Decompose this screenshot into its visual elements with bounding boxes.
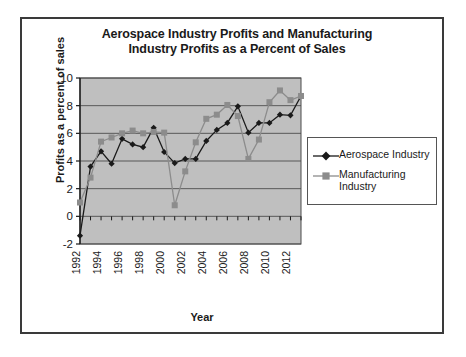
svg-text:10: 10	[60, 72, 73, 84]
chart-frame: Aerospace Industry Profits and Manufactu…	[20, 17, 444, 334]
svg-text:4: 4	[67, 155, 74, 167]
svg-text:2000: 2000	[154, 251, 166, 275]
svg-text:8: 8	[67, 100, 73, 112]
svg-text:2010: 2010	[259, 251, 271, 275]
svg-text:2012: 2012	[280, 251, 292, 275]
legend-label-manufacturing: Manufacturing Industry	[339, 168, 431, 192]
svg-text:2006: 2006	[217, 251, 229, 275]
legend-item-aerospace[interactable]: Aerospace Industry	[313, 148, 431, 163]
legend-item-manufacturing[interactable]: Manufacturing Industry	[313, 168, 431, 192]
svg-text:1998: 1998	[133, 251, 145, 275]
svg-text:1996: 1996	[112, 251, 124, 275]
legend-marker-square-icon	[313, 169, 339, 183]
svg-text:1992: 1992	[70, 251, 82, 275]
svg-text:-2: -2	[63, 238, 73, 250]
svg-text:1994: 1994	[91, 251, 103, 275]
legend-label-aerospace: Aerospace Industry	[339, 148, 429, 160]
svg-text:6: 6	[67, 127, 73, 139]
svg-text:2002: 2002	[175, 251, 187, 275]
svg-text:2: 2	[67, 183, 73, 195]
chart-legend: Aerospace Industry Manufacturing Industr…	[307, 137, 437, 205]
svg-text:2008: 2008	[238, 251, 250, 275]
legend-marker-diamond-icon	[313, 149, 339, 163]
svg-text:0: 0	[67, 210, 73, 222]
svg-text:2004: 2004	[196, 251, 208, 275]
